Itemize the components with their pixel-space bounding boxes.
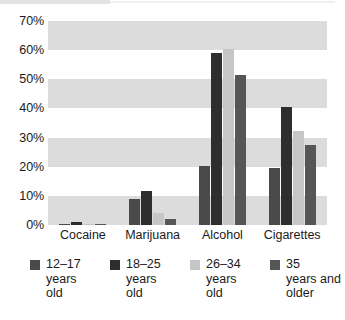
bars-layer [48,21,327,225]
x-axis-tick-label: Marijuana [125,228,180,242]
bar [199,166,210,225]
y-axis-tick-label: 70% [19,14,44,28]
legend-label: 18–25 years old [126,257,161,301]
bar [165,219,176,225]
bar [59,224,70,225]
bar [129,199,140,225]
bar [281,107,292,225]
bar [153,213,164,225]
bar-chart: 0%10%20%30%40%50%60%70% CocaineMarijuana… [0,12,335,244]
bar [269,168,280,225]
legend-swatch-icon [30,260,40,270]
legend-swatch-icon [110,260,120,270]
y-axis: 0%10%20%30%40%50%60%70% [0,21,44,225]
x-axis-tick-label: Cigarettes [264,228,321,242]
bar-group [257,21,327,225]
bar [223,49,234,225]
y-axis-tick-label: 60% [19,43,44,57]
bar-group [118,21,188,225]
bar [71,222,82,225]
x-axis-tick-label: Alcohol [202,228,243,242]
bar-group [48,21,118,225]
bar [305,145,316,225]
y-axis-tick-label: 50% [19,72,44,86]
x-axis: CocaineMarijuanaAlcoholCigarettes [48,228,327,246]
x-axis-tick-label: Cocaine [60,228,106,242]
legend-label: 26–34 years old [206,257,241,301]
chart-legend: 12–17 years old18–25 years old26–34 year… [0,258,335,316]
y-axis-tick-label: 10% [19,189,44,203]
legend-swatch-icon [270,260,280,270]
bar [293,131,304,225]
y-axis-tick-label: 30% [19,131,44,145]
legend-swatch-icon [190,260,200,270]
legend-label: 12–17 years old [46,257,81,301]
scan-artifact-secondary [110,1,335,3]
legend-label: 35 years and older [286,257,341,301]
y-axis-tick-label: 20% [19,160,44,174]
y-axis-tick-label: 0% [26,218,44,232]
bar [141,191,152,225]
y-axis-tick-label: 40% [19,101,44,115]
bar [83,224,94,225]
bar [211,53,222,225]
bar-group [188,21,258,225]
scan-artifact [0,0,110,4]
bar [95,224,106,225]
bar [235,75,246,225]
